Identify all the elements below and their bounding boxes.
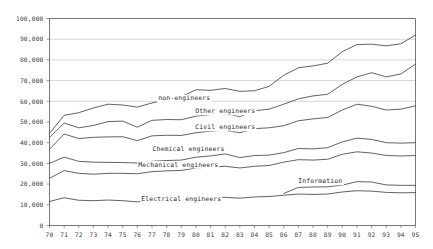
y-tick-label: 100,000 <box>16 15 44 22</box>
y-axis-ticks: 010,00020,00030,00040,00050,00060,00070,… <box>16 15 49 229</box>
x-tick-label: 87 <box>294 231 302 238</box>
gridlines-group <box>50 39 416 101</box>
x-tick-label: 95 <box>412 231 420 238</box>
y-tick-label: 20,000 <box>20 180 44 187</box>
x-tick-label: 94 <box>397 231 405 238</box>
series-label-mechanical-engineers: Mechanical engineers <box>138 161 218 169</box>
y-tick-label: 70,000 <box>20 77 44 84</box>
x-axis-ticks: 7071727374757677787980818283848586878889… <box>46 226 420 238</box>
series-label-other-engineers: Other engineers <box>195 107 255 115</box>
y-tick-label: 50,000 <box>20 118 44 125</box>
x-tick-label: 81 <box>207 231 215 238</box>
x-tick-label: 91 <box>353 231 361 238</box>
series-label-civil-engineers: Civil engineers <box>195 123 255 131</box>
x-tick-label: 88 <box>309 231 317 238</box>
x-tick-label: 77 <box>148 231 156 238</box>
x-tick-label: 92 <box>368 231 376 238</box>
x-tick-label: 83 <box>236 231 244 238</box>
series-label-chemical-engineers: Chemical engineers <box>153 145 225 153</box>
series-line-electrical-engineers <box>50 191 416 202</box>
x-tick-label: 70 <box>46 231 54 238</box>
x-tick-label: 90 <box>338 231 346 238</box>
series-label-electrical-engineers: Electrical engineers <box>141 195 221 203</box>
x-tick-label: 78 <box>163 231 171 238</box>
line-chart: 010,00020,00030,00040,00050,00060,00070,… <box>0 0 433 249</box>
x-tick-label: 74 <box>104 231 112 238</box>
chart-canvas: 010,00020,00030,00040,00050,00060,00070,… <box>0 0 433 249</box>
x-tick-label: 71 <box>60 231 68 238</box>
x-tick-label: 89 <box>324 231 332 238</box>
plot-frame <box>50 19 416 226</box>
series-label-non-engineers: non-engineers <box>158 94 210 102</box>
x-tick-label: 85 <box>265 231 273 238</box>
series-line-chemical-engineers <box>50 138 416 163</box>
x-tick-label: 82 <box>221 231 229 238</box>
x-tick-label: 84 <box>251 231 259 238</box>
plot-border <box>50 19 416 226</box>
series-label-information: Information <box>298 177 342 185</box>
y-tick-label: 0 <box>40 222 44 229</box>
series-labels-group: non-engineersOther engineersCivil engine… <box>137 94 343 202</box>
x-tick-label: 79 <box>177 231 185 238</box>
x-tick-label: 86 <box>280 231 288 238</box>
y-tick-label: 40,000 <box>20 139 44 146</box>
y-tick-label: 30,000 <box>20 160 44 167</box>
x-tick-label: 73 <box>89 231 97 238</box>
x-tick-label: 75 <box>119 231 127 238</box>
y-tick-label: 90,000 <box>20 35 44 42</box>
x-tick-label: 76 <box>133 231 141 238</box>
y-tick-label: 10,000 <box>20 201 44 208</box>
x-tick-label: 80 <box>192 231 200 238</box>
y-tick-label: 80,000 <box>20 56 44 63</box>
x-tick-label: 93 <box>382 231 390 238</box>
y-tick-label: 60,000 <box>20 98 44 105</box>
x-tick-label: 72 <box>75 231 83 238</box>
series-line-non-engineers <box>50 35 416 133</box>
